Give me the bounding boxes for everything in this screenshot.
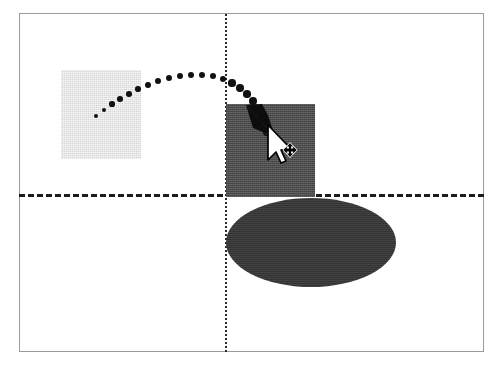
target-square[interactable] bbox=[226, 104, 315, 197]
source-square[interactable] bbox=[61, 70, 141, 159]
drop-ellipse[interactable] bbox=[226, 198, 396, 287]
diagram-canvas bbox=[0, 0, 499, 368]
